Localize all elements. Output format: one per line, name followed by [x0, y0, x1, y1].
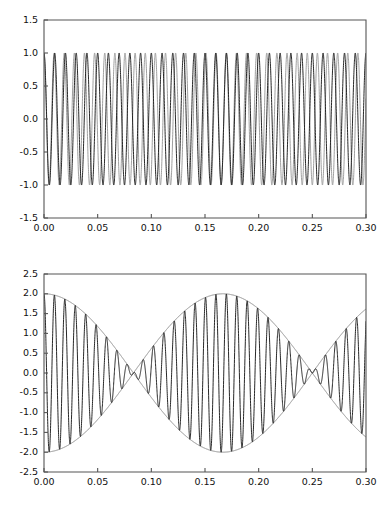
- y-tick-label: -0.5: [19, 146, 38, 157]
- y-tick-label: 1.0: [23, 47, 38, 58]
- y-tick-label: -1.5: [19, 212, 38, 223]
- y-tick-label: 2.0: [23, 287, 38, 298]
- beat-frequency-figure: -1.5-1.0-0.50.00.51.01.50.000.050.100.15…: [0, 0, 386, 508]
- x-tick-label: 0.05: [87, 476, 108, 487]
- y-tick-label: 1.0: [23, 327, 38, 338]
- y-tick-label: 1.5: [23, 307, 38, 318]
- x-tick-label: 0.15: [194, 222, 215, 233]
- y-tick-label: 1.5: [23, 14, 38, 25]
- y-tick-label: -1.0: [19, 179, 38, 190]
- chart-panel-top: -1.5-1.0-0.50.00.51.01.50.000.050.100.15…: [0, 0, 386, 254]
- y-tick-label: 2.5: [23, 268, 38, 279]
- x-tick-label: 0.25: [302, 476, 323, 487]
- x-tick-label: 0.10: [141, 222, 162, 233]
- x-tick-label: 0.00: [33, 222, 54, 233]
- x-tick-label: 0.30: [355, 222, 376, 233]
- x-tick-label: 0.20: [248, 222, 269, 233]
- y-tick-label: 0.5: [23, 347, 38, 358]
- top-panel-plot: -1.5-1.0-0.50.00.51.01.50.000.050.100.15…: [0, 0, 386, 254]
- x-tick-label: 0.10: [141, 476, 162, 487]
- x-tick-label: 0.30: [355, 476, 376, 487]
- x-tick-label: 0.25: [302, 222, 323, 233]
- x-tick-label: 0.15: [194, 476, 215, 487]
- x-tick-label: 0.00: [33, 476, 54, 487]
- x-tick-label: 0.05: [87, 222, 108, 233]
- x-tick-label: 0.20: [248, 476, 269, 487]
- y-tick-label: 0.0: [23, 367, 38, 378]
- y-tick-label: 0.0: [23, 113, 38, 124]
- y-tick-label: -1.0: [19, 406, 38, 417]
- chart-panel-bottom: -2.5-2.0-1.5-1.0-0.50.00.51.01.52.02.50.…: [0, 254, 386, 508]
- y-tick-label: -0.5: [19, 386, 38, 397]
- y-tick-label: -2.5: [19, 466, 38, 477]
- y-tick-label: -2.0: [19, 446, 38, 457]
- y-tick-label: -1.5: [19, 426, 38, 437]
- y-tick-label: 0.5: [23, 80, 38, 91]
- bottom-panel-plot: -2.5-2.0-1.5-1.0-0.50.00.51.01.52.02.50.…: [0, 254, 386, 508]
